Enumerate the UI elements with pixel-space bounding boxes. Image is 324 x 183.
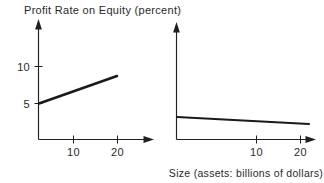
right-x-axis-arrow-icon (306, 136, 317, 143)
left-data-line (39, 76, 117, 104)
left-x-tick-label-20: 20 (111, 146, 124, 158)
right-x-tick-label-20: 20 (294, 146, 307, 158)
right-data-line (177, 117, 309, 124)
figure-container: Profit Rate on Equity (percent) 10 5 10 … (0, 0, 324, 183)
right-x-tick-label-10: 10 (250, 146, 263, 158)
right-chart-x-axis-caption: Size (assets: billions of dollars) (169, 167, 323, 179)
left-y-tick-label-5: 5 (24, 98, 30, 110)
left-chart-title: Profit Rate on Equity (percent) (24, 4, 181, 16)
left-x-axis-arrow-icon (144, 136, 155, 143)
left-y-tick-label-10: 10 (17, 61, 30, 73)
left-x-tick-label-10: 10 (67, 146, 80, 158)
right-y-axis-arrow-icon (173, 22, 180, 33)
left-chart-panel: Profit Rate on Equity (percent) 10 5 10 … (17, 4, 181, 158)
right-chart-panel: 10 20 Size (assets: billions of dollars) (169, 22, 323, 179)
left-y-axis-arrow-icon (35, 19, 42, 30)
